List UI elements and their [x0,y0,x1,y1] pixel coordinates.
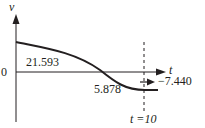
zero-crossing-label: 5.878 [94,83,121,95]
origin-label: 0 [1,66,7,78]
y-axis-label: v [9,1,14,13]
end-value-label: −7.440 [158,75,192,87]
y-axis-arrowhead-icon [13,14,20,24]
value-pointer-arrowhead-icon [147,79,155,86]
area-label: 21.593 [26,56,59,68]
t10-label: t =10 [130,113,156,125]
velocity-time-diagram: v t 0 21.593 5.878 −7.440 t =10 [0,0,205,128]
